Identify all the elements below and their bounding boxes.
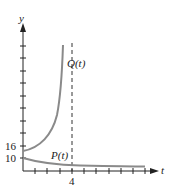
q-curve <box>23 45 63 151</box>
chart-canvas <box>0 0 172 190</box>
x-axis-label: t <box>161 165 164 176</box>
y-tick-label-10: 10 <box>5 153 16 164</box>
q-curve-label: Q(t) <box>67 58 85 69</box>
y-axis-label: y <box>19 13 24 24</box>
p-curve <box>23 158 145 167</box>
y-axis-arrow-icon <box>20 23 26 32</box>
p-curve-label: P(t) <box>51 150 68 161</box>
y-tick-label-16: 16 <box>5 141 16 152</box>
x-tick-label-4: 4 <box>69 176 75 187</box>
x-axis-arrow-icon <box>150 168 159 174</box>
